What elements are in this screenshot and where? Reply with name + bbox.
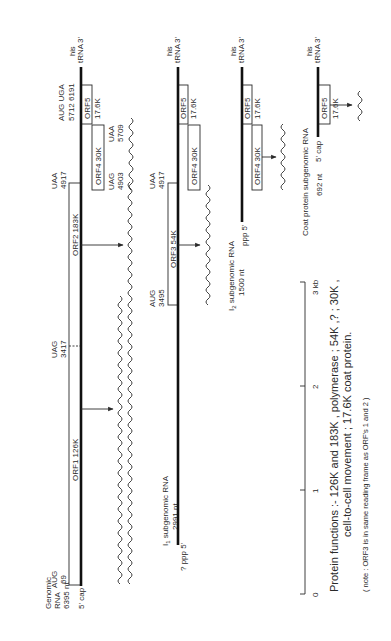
genomic-orf4-label: ORF4 30K [94,147,103,185]
scale-label-3kb: 3 kb [311,279,320,295]
protein-126k-wave [118,296,122,584]
uag4903-pos: 4903 [116,172,125,190]
i1-his-label: his [165,46,174,56]
orf3-note: ( note : ORF3 is in same reading frame a… [361,397,370,592]
uaa5709-codon: UAA [107,125,116,142]
i2-subgenomic-rna-map: I2 subgenomic RNA 1500 nt ppp 5' ORF5 17… [227,37,285,311]
protein-54k-wave [206,185,210,305]
protein-17-6k-wave [358,91,362,121]
i1-title: I1 subgenomic RNA [161,475,171,546]
aug-uga-codons: AUG UGA [57,83,66,121]
coat-his-label: his [305,46,314,56]
i2-trna-label: tRNA [237,43,246,63]
genomic-trna-label: tRNA [76,43,85,63]
i2-orf5-mass: 17.6K [253,97,262,119]
protein-functions-line1: Protein functions :- 126K and 183K , pol… [328,280,340,592]
genomic-his-label: his [68,46,77,56]
coat-length: 692 nt [315,173,324,196]
uag3417-codon: UAG [50,341,59,358]
coat-trna-label: tRNA [313,43,322,63]
i1-5prime-label: ? ppp 5' [179,542,188,571]
genomic-rna-length: 6395 nt [62,582,71,609]
genomic-orf5-mass: 17.6K [93,97,102,119]
i1-3prime-label: 3' [173,37,182,43]
orf3-label: ORF3 54K [169,230,178,268]
i2-length: 1500 nt [237,269,246,296]
i1-aug-pos: 3495 [157,289,166,307]
i2-his-label: his [229,46,238,56]
genomic-orf5-label: ORF5 [83,97,92,119]
i1-trna-label: tRNA [173,43,182,63]
genomic-rna-title-2: RNA [53,591,62,609]
coat-protein-subgenomic-rna-map: Coat protein subgenomic RNA 692 nt 5' ca… [301,37,362,236]
i1-uaa-codon: UAA [148,172,157,189]
uaa4917-codon: UAA [50,172,59,189]
i2-title: I2 subgenomic RNA [227,240,237,311]
protein-30k-wave-genomic [129,118,133,190]
i2-orf4-label: ORF4 30K [253,147,262,185]
uaa5709-pos: 5709 [116,124,125,142]
coat-orf5-label: ORF5 [320,97,329,119]
aug-uga-positions: 5712 6191 [67,83,76,121]
coat-5cap-label: 5' cap [314,140,323,162]
protein-functions-legend: Protein functions :- 126K and 183K , pol… [328,280,370,592]
aug69-codon: AUG [50,571,59,588]
genomic-rna-map: Genomic RNA 6395 nt 5' cap ORF1 126K ORF… [44,37,133,609]
coat-3prime-label: 3' [313,37,322,43]
i1-orf4-label: ORF4 30K [190,147,199,185]
uag3417-pos: 3417 [59,340,68,358]
uaa4917-pos: 4917 [59,171,68,189]
coat-orf5-mass: 17.6K [331,97,340,119]
aug69-pos: 69 [59,575,68,584]
scale-label-0: 0 [311,592,320,597]
protein-183k-wave [128,182,132,584]
scale-bar: 0 1 2 3 kb [300,279,320,597]
protein-functions-line2: cell-to-cell movement ; 17.6K coat prote… [341,332,353,537]
genomic-5cap-label: 5' cap [77,587,86,609]
i1-subgenomic-rna-map: I1 subgenomic RNA 2991 nt ? ppp 5' ORF3 … [148,37,210,571]
orf1-label: ORF1 126K [71,438,80,481]
i1-aug-codon: AUG [148,290,157,307]
i1-orf5-label: ORF5 [179,97,188,119]
scale-label-2: 2 [311,384,320,389]
coat-title: Coat protein subgenomic RNA [301,127,310,236]
protein-30k-wave [281,124,285,190]
scale-label-1: 1 [311,488,320,493]
i1-uaa-pos: 4917 [157,171,166,189]
orf2-label: ORF2 183K [71,213,80,256]
genomic-3prime-label: 3' [76,37,85,43]
uag4903-codon: UAG [107,173,116,190]
i1-orf5-mass: 17.6K [189,97,198,119]
tmv-genome-diagram: Genomic RNA 6395 nt 5' cap ORF1 126K ORF… [0,0,391,641]
i2-3prime-label: 3' [237,37,246,43]
i2-5prime-label: ppp 5' [240,224,249,246]
i2-orf5-label: ORF5 [243,97,252,119]
